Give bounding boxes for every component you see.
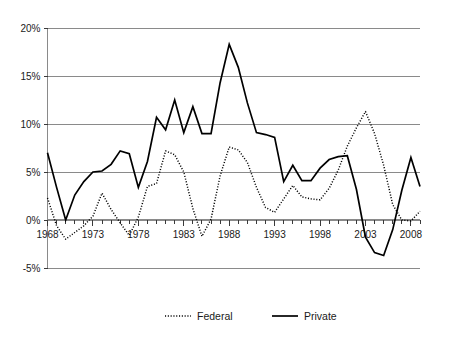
x-tick-label: 1978	[127, 229, 150, 240]
x-tick-label: 1993	[264, 229, 287, 240]
x-tick-label: 1988	[218, 229, 241, 240]
line-chart: -5%0%5%10%15%20% 19681973197819831988199…	[0, 0, 450, 345]
x-tick-label: 2008	[400, 229, 423, 240]
chart-container: -5%0%5%10%15%20% 19681973197819831988199…	[0, 0, 450, 345]
x-axis-group	[48, 220, 421, 226]
x-tick-label: 1998	[309, 229, 332, 240]
x-tick-label: 1983	[173, 229, 196, 240]
y-tick-label: 20%	[20, 23, 40, 34]
y-tick-label: 15%	[20, 71, 40, 82]
y-tick-label: 10%	[20, 119, 40, 130]
x-tick-label: 1973	[82, 229, 105, 240]
y-tick-label: -5%	[23, 263, 41, 274]
legend-label-private: Private	[304, 310, 337, 322]
legend-label-federal: Federal	[197, 310, 233, 322]
y-tick-label: 0%	[26, 215, 41, 226]
x-tick-label: 1968	[36, 229, 59, 240]
y-tick-label: 5%	[26, 167, 41, 178]
chart-legend: FederalPrivate	[165, 310, 337, 322]
